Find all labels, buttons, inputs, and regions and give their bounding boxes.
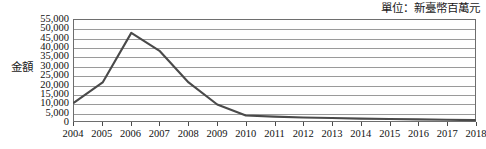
x-axis-tick-label: 2008: [178, 127, 199, 141]
x-axis-tick-mark: [361, 122, 362, 126]
x-axis-tick-label: 2010: [235, 127, 256, 141]
x-axis-tick-mark: [188, 122, 189, 126]
x-axis-tick-label: 2007: [149, 127, 170, 141]
x-axis-tick-mark: [217, 122, 218, 126]
y-axis-tick-label: 0: [64, 117, 69, 127]
x-axis-tick-label: 2015: [379, 127, 400, 141]
series-line-amount: [74, 20, 475, 121]
x-axis-tick-mark: [390, 122, 391, 126]
x-axis-tick-label: 2006: [120, 127, 141, 141]
x-axis-tick-mark: [73, 122, 74, 126]
x-axis-tick-label: 2011: [264, 127, 285, 141]
plot-area: [73, 19, 476, 122]
unit-annotation: 單位：新臺幣百萬元: [381, 1, 480, 15]
x-axis-tick-label: 2016: [408, 127, 429, 141]
x-axis-tick-label: 2012: [293, 127, 314, 141]
x-axis-tick-mark: [447, 122, 448, 126]
x-axis-tick-mark: [332, 122, 333, 126]
line-chart: 單位：新臺幣百萬元 金額 55,00050,00045,00040,00035,…: [0, 0, 486, 149]
x-axis-tick-label: 2013: [322, 127, 343, 141]
x-axis-tick-label: 2014: [350, 127, 371, 141]
x-axis-tick-mark: [303, 122, 304, 126]
x-axis-tick-label: 2004: [63, 127, 84, 141]
x-axis-tick-label: 2017: [437, 127, 458, 141]
x-axis-tick-mark: [131, 122, 132, 126]
x-axis-tick-mark: [246, 122, 247, 126]
x-axis-tick-labels: 2004200520062007200820092010201120122013…: [73, 127, 476, 143]
x-axis-tick-mark: [275, 122, 276, 126]
x-axis-tick-mark: [159, 122, 160, 126]
x-axis-tick-mark: [418, 122, 419, 126]
y-axis-tick-labels: 55,00050,00045,00040,00035,00030,00025,0…: [30, 17, 71, 122]
x-axis-tick-label: 2005: [91, 127, 112, 141]
x-axis-tick-label: 2018: [466, 127, 486, 141]
x-axis-tick-mark: [102, 122, 103, 126]
x-axis-tick-label: 2009: [206, 127, 227, 141]
x-axis-tick-mark: [476, 122, 477, 126]
